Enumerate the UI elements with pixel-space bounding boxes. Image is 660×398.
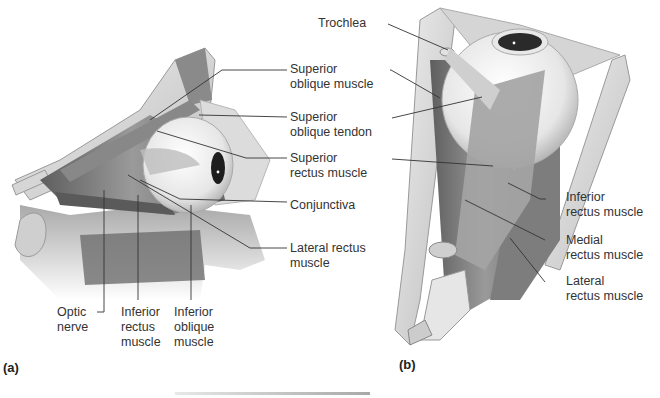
label-optic-nerve: Optic nerve (57, 305, 88, 335)
bottom-divider (175, 392, 370, 395)
label-trochlea: Trochlea (318, 16, 366, 31)
label-superior-oblique-muscle: Superior oblique muscle (290, 62, 373, 92)
label-inferior-oblique-muscle: Inferior oblique muscle (174, 305, 214, 350)
label-superior-rectus-muscle: Superior rectus muscle (290, 151, 367, 181)
label-medial-rectus-muscle: Medial rectus muscle (566, 233, 643, 263)
label-lateral-rectus-muscle-a: Lateral rectus muscle (290, 241, 366, 271)
panel-label-b: (b) (399, 357, 416, 372)
label-lateral-rectus-muscle-b: Lateral rectus muscle (566, 274, 643, 304)
label-conjunctiva: Conjunctiva (290, 198, 355, 213)
label-inferior-rectus-muscle-a: Inferior rectus muscle (121, 305, 161, 350)
label-inferior-rectus-muscle-b: Inferior rectus muscle (566, 190, 643, 220)
label-superior-oblique-tendon: Superior oblique tendon (290, 110, 372, 140)
panel-label-a: (a) (3, 360, 19, 375)
panel-a-drawing (12, 48, 270, 300)
